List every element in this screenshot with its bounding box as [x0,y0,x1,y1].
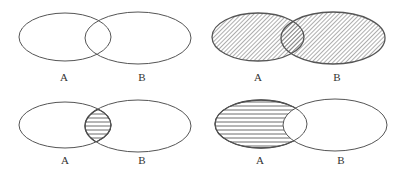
venn-diagrams-canvas [0,0,404,173]
venn-panel-plain [19,12,191,64]
panel-intersection-label-a: A [61,155,69,166]
panel-union-label-b: B [333,72,340,83]
venn-panel-union [212,12,385,64]
set-a-ellipse [19,13,111,61]
venn-panel-difference [215,99,387,151]
venn-diagram-figure: A B A B A B A B [0,0,404,173]
panel-plain-label-a: A [60,72,68,83]
panel-difference-label-b: B [337,155,344,166]
panel-plain-label-b: B [138,72,145,83]
panel-intersection-label-b: B [138,155,145,166]
panel-union-label-a: A [254,72,262,83]
set-b-ellipse [85,12,191,64]
panel-difference-label-a: A [256,155,264,166]
venn-panel-intersection [19,100,191,152]
